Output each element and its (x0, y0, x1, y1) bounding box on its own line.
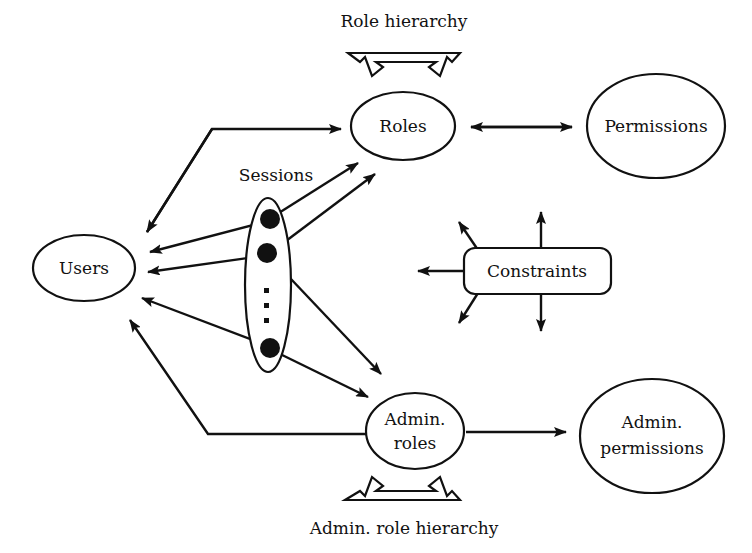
role-hierarchy-label: Role hierarchy (341, 11, 468, 31)
edge-session3-admin-roles (276, 352, 368, 397)
node-admin-permissions[interactable]: Admin. permissions (580, 379, 724, 493)
edge-constraints-down-left (459, 293, 478, 323)
session-dot-1[interactable] (260, 209, 280, 229)
session-ellipsis-dot-3 (264, 318, 269, 323)
session-ellipsis-dot-1 (264, 288, 269, 293)
rbac-diagram: Users Roles Permissions Constraints (0, 0, 752, 553)
node-users[interactable]: Users (33, 235, 135, 301)
node-admin-permissions-label-line1: Admin. (620, 412, 682, 432)
admin-role-hierarchy-label: Admin. role hierarchy (309, 518, 499, 538)
diagram-canvas: Users Roles Permissions Constraints (0, 0, 752, 553)
session-ellipsis-dot-2 (264, 303, 269, 308)
edge-constraints-up-left (459, 222, 478, 250)
node-permissions-label: Permissions (604, 116, 707, 136)
session-dot-2[interactable] (257, 243, 277, 263)
session-dot-3[interactable] (260, 338, 280, 358)
node-admin-roles-label-line2: roles (394, 433, 437, 453)
node-sessions[interactable] (245, 198, 291, 372)
node-roles[interactable]: Roles (351, 92, 455, 160)
node-roles-label: Roles (379, 116, 426, 136)
node-users-label: Users (59, 258, 109, 278)
node-admin-roles[interactable]: Admin. roles (366, 393, 464, 469)
sessions-label: Sessions (239, 165, 314, 185)
node-admin-roles-label-line1: Admin. (383, 409, 445, 429)
admin-role-hierarchy-arrow (345, 477, 460, 500)
node-admin-permissions-label-line2: permissions (600, 438, 703, 458)
node-permissions[interactable]: Permissions (587, 74, 725, 178)
role-hierarchy-arrow (348, 53, 460, 76)
node-constraints[interactable]: Constraints (464, 248, 611, 294)
node-constraints-label: Constraints (487, 261, 587, 281)
